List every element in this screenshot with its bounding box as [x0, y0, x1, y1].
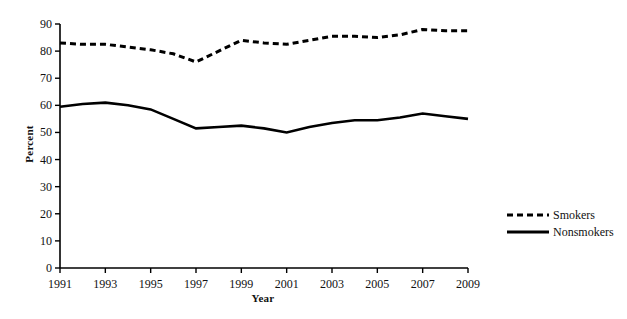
y-axis-title: Percent [23, 109, 35, 179]
x-tick-label: 1995 [126, 278, 176, 290]
x-tick-label: 2007 [398, 278, 448, 290]
x-tick-label: 1999 [216, 278, 266, 290]
x-axis-tick-labels: 1991199319951997199920012003200520072009 [0, 0, 627, 319]
legend-dashed-line-icon [505, 210, 551, 220]
x-tick-label: 1993 [80, 278, 130, 290]
legend-solid-line-icon [505, 227, 551, 237]
legend-label-smokers: Smokers [551, 209, 595, 221]
x-tick-label: 2009 [443, 278, 493, 290]
chart-legend: Smokers Nonsmokers [505, 206, 627, 240]
legend-item-smokers: Smokers [505, 206, 627, 223]
x-axis-title: Year [60, 292, 466, 304]
x-tick-label: 1991 [35, 278, 85, 290]
x-tick-label: 2003 [307, 278, 357, 290]
legend-label-nonsmokers: Nonsmokers [551, 226, 614, 238]
line-chart: 0102030405060708090 19911993199519971999… [0, 0, 627, 319]
x-tick-label: 1997 [171, 278, 221, 290]
x-tick-label: 2005 [352, 278, 402, 290]
legend-item-nonsmokers: Nonsmokers [505, 223, 627, 240]
x-tick-label: 2001 [262, 278, 312, 290]
